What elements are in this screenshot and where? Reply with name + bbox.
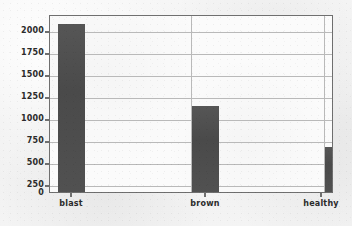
x-tick-label-healthy: healthy: [296, 199, 346, 208]
y-tick-mark-1500: [45, 75, 50, 77]
y-tick-mark-250: [45, 185, 50, 187]
y-tick-mark-750: [45, 141, 50, 143]
y-tick-label-500: 500: [27, 159, 44, 167]
x-tick-mark-brown: [204, 193, 206, 197]
y-tick-mark-2000: [45, 31, 50, 33]
y-tick-label-1000: 1000: [21, 115, 44, 123]
plot-area: [49, 15, 333, 193]
y-axis-labels: 2000 1750 1500 1250 1000 750 500 250 0: [6, 0, 44, 226]
x-tick-mark-healthy: [320, 193, 322, 197]
y-tick-mark-500: [45, 163, 50, 165]
x-tick-mark-blast: [70, 193, 72, 197]
bar-brown[interactable]: [192, 106, 219, 192]
y-tick-label-1750: 1750: [21, 49, 44, 57]
y-tick-label-1500: 1500: [21, 71, 44, 79]
bar-blast[interactable]: [58, 24, 85, 192]
y-tick-mark-1250: [45, 97, 50, 99]
scanned-chart-page: 2000 1750 1500 1250 1000 750 500 250 0 b…: [0, 0, 352, 226]
x-tick-label-brown: brown: [180, 199, 230, 208]
y-tick-label-0: 0: [38, 189, 44, 197]
y-tick-label-750: 750: [27, 137, 44, 145]
bar-healthy[interactable]: [325, 147, 333, 192]
x-tick-label-blast: blast: [46, 199, 96, 208]
y-tick-label-1250: 1250: [21, 93, 44, 101]
y-tick-mark-1000: [45, 119, 50, 121]
y-tick-label-2000: 2000: [21, 27, 44, 35]
y-tick-mark-1750: [45, 53, 50, 55]
